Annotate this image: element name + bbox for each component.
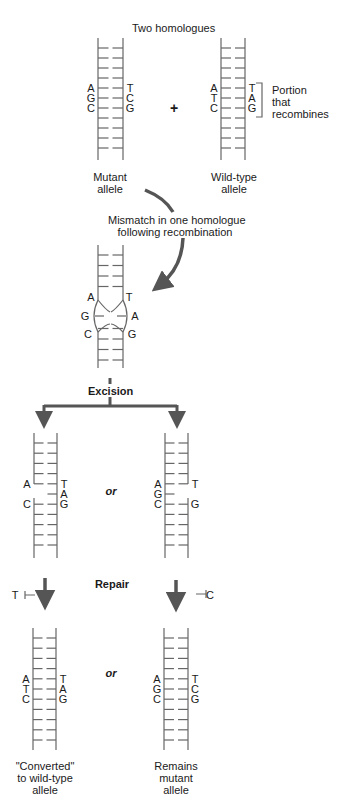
base-C: C [21, 694, 31, 704]
mismatch-label: Mismatch in one homologuefollowing recom… [108, 214, 242, 238]
portion-recombines-label: Portionthatrecombines [272, 84, 329, 120]
base-G: G [58, 694, 68, 704]
base-G: G [127, 329, 137, 339]
diagram-graphics [0, 0, 342, 807]
excised-left-ladder [34, 433, 57, 558]
mutant-allele-label: Mutantallele [84, 171, 136, 195]
base-C: C [152, 694, 162, 704]
base-G: G [190, 499, 200, 509]
base-G: G [80, 311, 90, 321]
plus-sign: + [170, 102, 178, 114]
base-A: A [22, 479, 32, 489]
repair-insert-t: T [10, 590, 20, 600]
base-C: C [22, 499, 32, 509]
base-C: C [209, 103, 219, 113]
excision-label: Excision [88, 385, 132, 397]
or-label-2: or [104, 667, 118, 679]
base-G: G [125, 103, 135, 113]
base-T: T [124, 292, 134, 302]
base-C: C [83, 329, 93, 339]
repair-insert-c: C [205, 590, 215, 600]
base-C: C [153, 499, 163, 509]
converted-label: "Converted"to wild-typeallele [14, 760, 76, 796]
curved-arrow-2 [160, 238, 183, 285]
wildtype-dna-ladder [221, 38, 245, 160]
excised-right-ladder [165, 433, 188, 558]
curved-arrow-1 [145, 190, 173, 212]
base-A: A [86, 292, 96, 302]
remains-mutant-label: Remainsmutantallele [150, 760, 202, 796]
or-label-1: or [104, 485, 118, 497]
base-C: C [86, 103, 96, 113]
base-G: G [190, 694, 200, 704]
repair-label: Repair [94, 578, 130, 590]
base-G: G [59, 499, 69, 509]
base-A: A [130, 311, 140, 321]
base-T: T [190, 479, 200, 489]
base-G: G [247, 103, 257, 113]
wildtype-allele-label: Wild-typeallele [206, 171, 262, 195]
title-two-homologues: Two homologues [132, 22, 215, 34]
mutant-dna-ladder [98, 38, 123, 160]
